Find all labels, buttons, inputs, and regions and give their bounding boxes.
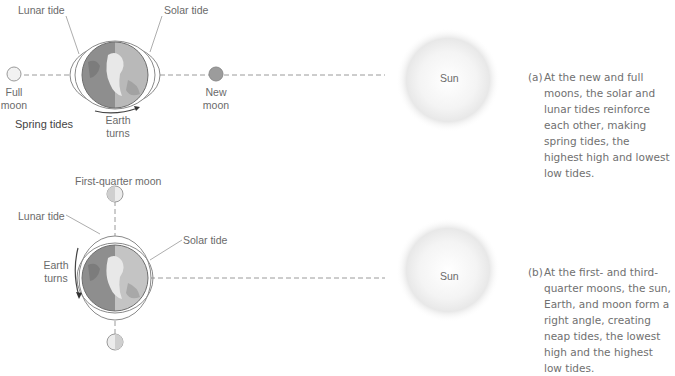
spring-tides-label: Spring tides [15,118,73,131]
full-moon-label: Full moon [0,86,28,111]
new-moon-icon [209,67,223,81]
lunar-tide-label-b: Lunar tide [18,210,65,223]
first-quarter-moon-label: First-quarter moon [75,175,161,188]
solar-tide-label-b: Solar tide [183,234,227,247]
solar-tide-label-a: Solar tide [164,4,208,17]
sun-label-b: Sun [440,270,459,283]
full-moon-icon [7,67,21,81]
lunar-tide-label-a: Lunar tide [18,4,65,17]
sun-label-a: Sun [440,72,459,85]
caption-a: (a) At the new and full moons, the solar… [528,69,675,181]
panel-a-graphic [7,16,500,132]
new-moon-label: New moon [200,86,232,111]
earth-turns-label-a: Earth turns [100,114,136,139]
panel-b-graphic [66,186,500,350]
caption-b: (b) At the first- and third-quarter moon… [528,264,675,376]
earth-turns-label-b: Earth turns [40,259,72,284]
